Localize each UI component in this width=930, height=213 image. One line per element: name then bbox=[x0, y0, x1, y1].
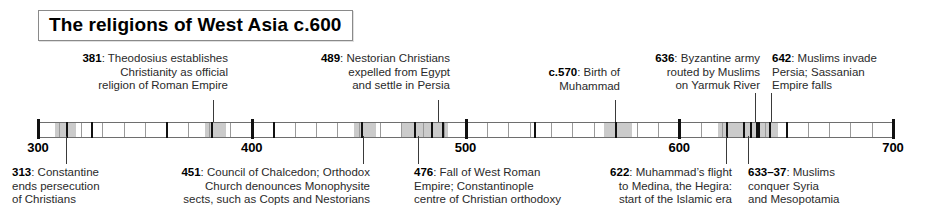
event-tick bbox=[91, 122, 93, 138]
event-headline: 622: Muhammad’s flight bbox=[584, 166, 732, 180]
event-leader-line bbox=[748, 136, 749, 164]
event-text-line: to Medina, the Hegira: bbox=[584, 180, 732, 194]
event-callout[interactable]: 489: Nestorian Christiansexpelled from E… bbox=[288, 52, 450, 93]
event-text-line: : Birth of bbox=[577, 66, 620, 78]
decade-tick bbox=[188, 123, 189, 137]
century-tick bbox=[678, 119, 681, 139]
event-tick bbox=[414, 122, 416, 138]
event-tick bbox=[743, 122, 745, 138]
decade-tick bbox=[722, 123, 723, 137]
decade-tick bbox=[102, 123, 103, 137]
decade-tick bbox=[572, 123, 573, 137]
decade-tick bbox=[380, 123, 381, 137]
decade-tick bbox=[316, 123, 317, 137]
event-text-line: on Yarmuk River bbox=[628, 79, 760, 93]
century-tick bbox=[37, 119, 40, 139]
decade-tick bbox=[508, 123, 509, 137]
event-year: 642 bbox=[772, 52, 791, 64]
event-tick bbox=[534, 122, 536, 138]
event-year: 313 bbox=[12, 166, 31, 178]
event-text-line: Empire; Constantinople bbox=[414, 180, 590, 194]
event-callout[interactable]: 633–37: Muslimsconquer Syriaand Mesopota… bbox=[748, 166, 898, 207]
event-text-line: : Nestorian Christians bbox=[340, 52, 450, 64]
event-year: 636 bbox=[655, 52, 674, 64]
event-callout[interactable]: c.570: Birth ofMuhammad bbox=[488, 66, 620, 93]
event-callout[interactable]: 451: Council of Chalcedon; OrthodoxChurc… bbox=[160, 166, 370, 207]
event-text-line: : Byzantine army bbox=[674, 52, 760, 64]
event-year: c.570 bbox=[548, 66, 577, 78]
event-callout[interactable]: 313: Constantineends persecutionof Chris… bbox=[12, 166, 130, 207]
event-callout[interactable]: 642: Muslims invadePersia; SassanianEmpi… bbox=[772, 52, 922, 93]
event-headline: 636: Byzantine army bbox=[628, 52, 760, 66]
event-text-line: Persia; Sassanian bbox=[772, 66, 922, 80]
event-text-line: of Christians bbox=[12, 193, 130, 207]
decade-tick bbox=[594, 123, 595, 137]
event-text-line: and settle in Persia bbox=[288, 79, 450, 93]
axis-tick-label: 700 bbox=[882, 140, 904, 155]
event-year: 381 bbox=[82, 52, 101, 64]
axis-tick-label: 600 bbox=[668, 140, 690, 155]
decade-tick bbox=[850, 123, 851, 137]
event-headline: 642: Muslims invade bbox=[772, 52, 922, 66]
event-headline: 313: Constantine bbox=[12, 166, 130, 180]
event-headline: c.570: Birth of bbox=[488, 66, 620, 80]
decade-tick bbox=[337, 123, 338, 137]
event-text-line: : Fall of West Roman bbox=[433, 166, 540, 178]
event-leader-line bbox=[363, 136, 364, 164]
event-callout[interactable]: 636: Byzantine armyrouted by Muslimson Y… bbox=[628, 52, 760, 93]
event-text-line: : Council of Chalcedon; Orthodox bbox=[201, 166, 370, 178]
event-text-line: Christianity as official bbox=[48, 66, 228, 80]
decade-tick bbox=[808, 123, 809, 137]
decade-tick bbox=[209, 123, 210, 137]
decade-tick bbox=[530, 123, 531, 137]
event-tick bbox=[166, 122, 168, 138]
axis-tick-label: 500 bbox=[455, 140, 477, 155]
event-tick bbox=[769, 122, 771, 138]
decade-tick bbox=[444, 123, 445, 137]
century-tick bbox=[892, 119, 895, 139]
event-text-line: conquer Syria bbox=[748, 180, 898, 194]
decade-tick bbox=[401, 123, 402, 137]
decade-tick bbox=[230, 123, 231, 137]
decade-tick bbox=[295, 123, 296, 137]
decade-tick bbox=[658, 123, 659, 137]
event-leader-line bbox=[66, 136, 67, 164]
decade-tick bbox=[487, 123, 488, 137]
axis-highlight-band bbox=[604, 123, 632, 137]
event-tick bbox=[273, 122, 275, 138]
century-tick bbox=[251, 119, 254, 139]
event-text-line: : Muslims bbox=[786, 166, 835, 178]
event-year: 633–37 bbox=[748, 166, 786, 178]
event-text-line: Empire falls bbox=[772, 79, 922, 93]
event-tick bbox=[786, 122, 788, 138]
event-leader-line bbox=[213, 100, 214, 122]
decade-tick bbox=[765, 123, 766, 137]
event-text-line: Muhammad bbox=[488, 80, 620, 94]
event-text-line: centre of Christian orthodoxy bbox=[414, 193, 590, 207]
event-headline: 381: Theodosius establishes bbox=[48, 52, 228, 66]
event-tick bbox=[615, 122, 617, 138]
decade-tick bbox=[145, 123, 146, 137]
decade-tick bbox=[359, 123, 360, 137]
event-tick bbox=[750, 122, 752, 138]
event-text-line: : Theodosius establishes bbox=[102, 52, 228, 64]
event-year: 476 bbox=[414, 166, 433, 178]
event-tick bbox=[442, 122, 444, 138]
event-headline: 633–37: Muslims bbox=[748, 166, 898, 180]
event-tick bbox=[211, 122, 213, 138]
axis-tick-label: 400 bbox=[241, 140, 263, 155]
event-callout[interactable]: 622: Muhammad’s flightto Medina, the Heg… bbox=[584, 166, 732, 207]
event-callout[interactable]: 381: Theodosius establishesChristianity … bbox=[48, 52, 228, 93]
axis-tick-label: 300 bbox=[27, 140, 49, 155]
event-callout[interactable]: 476: Fall of West RomanEmpire; Constanti… bbox=[414, 166, 590, 207]
event-leader-line bbox=[615, 100, 616, 122]
event-text-line: : Muhammad’s flight bbox=[629, 166, 732, 178]
decade-tick bbox=[829, 123, 830, 137]
event-tick bbox=[431, 122, 433, 138]
event-headline: 451: Council of Chalcedon; Orthodox bbox=[160, 166, 370, 180]
page-title: The religions of West Asia c.600 bbox=[38, 10, 353, 41]
event-text-line: expelled from Egypt bbox=[288, 66, 450, 80]
decade-tick bbox=[637, 123, 638, 137]
decade-tick bbox=[423, 123, 424, 137]
event-text-line: sects, such as Copts and Nestorians bbox=[160, 193, 370, 207]
